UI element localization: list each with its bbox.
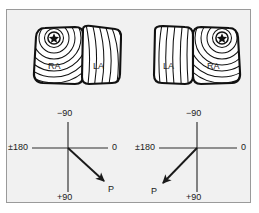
chamber-label-la: LA [163, 62, 174, 71]
left-panel: −90 ±180 0 +90 P RA LA [7, 10, 129, 204]
axis-label-zero: 0 [241, 143, 246, 152]
axis-label-minus-90: −90 [186, 109, 201, 118]
axis-label-plus-minus-180: ±180 [8, 143, 28, 152]
chamber-label-ra: RA [48, 62, 61, 71]
p-wave-vector-label: P [108, 185, 114, 194]
left-panel-graphics [7, 10, 129, 204]
p-wave-vector-arrow [68, 148, 104, 181]
right-panel-graphics [125, 10, 247, 204]
vector-axis-cross [32, 122, 108, 192]
axis-label-zero: 0 [112, 143, 117, 152]
star-icon [216, 32, 228, 44]
right-panel: −90 ±180 0 +90 P LA RA [125, 10, 247, 204]
axis-label-plus-90: +90 [57, 193, 72, 202]
figure-frame: −90 ±180 0 +90 P RA LA [6, 9, 251, 203]
chamber-label-la: LA [93, 62, 104, 71]
p-wave-vector-label: P [151, 187, 157, 196]
vector-axis-cross [159, 122, 237, 192]
figure-root: −90 ±180 0 +90 P RA LA [0, 0, 259, 213]
axis-label-plus-minus-180: ±180 [135, 143, 155, 152]
star-icon [48, 32, 60, 44]
axis-label-plus-90: +90 [186, 193, 201, 202]
chamber-label-ra: RA [207, 62, 220, 71]
axis-label-minus-90: −90 [57, 109, 72, 118]
p-wave-vector-arrow [163, 148, 197, 183]
